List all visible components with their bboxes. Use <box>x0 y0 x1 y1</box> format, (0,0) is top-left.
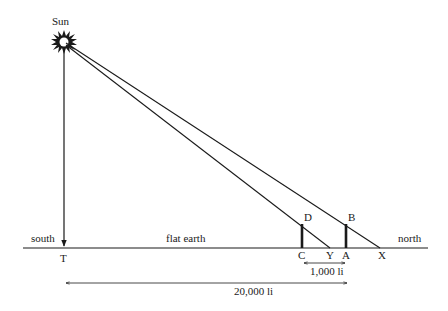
ray-sun-to-X <box>66 43 380 248</box>
flat-earth-label: flat earth <box>166 232 206 244</box>
distance-CA-label: 1,000 li <box>310 265 344 277</box>
point-label-T: T <box>60 252 67 264</box>
south-label: south <box>31 232 55 244</box>
sun-label: Sun <box>52 15 70 27</box>
distance-TA-label: 20,000 li <box>234 285 273 297</box>
north-label: north <box>398 232 422 244</box>
point-label-B: B <box>348 211 355 223</box>
point-label-X: X <box>378 249 386 261</box>
point-label-C: C <box>298 249 305 261</box>
ray-sun-to-Y <box>66 45 330 248</box>
point-label-Y: Y <box>326 249 334 261</box>
point-label-A: A <box>342 249 350 261</box>
point-label-D: D <box>304 211 312 223</box>
sun-distance-diagram: Sun south flat earth north D B T C Y A X… <box>0 0 448 311</box>
